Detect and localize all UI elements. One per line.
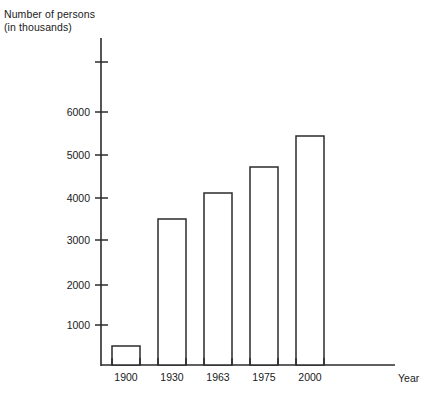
- bar-group: [112, 136, 324, 365]
- x-axis-title: Year: [398, 372, 420, 384]
- y-tick-label-1000: 1000: [67, 319, 91, 331]
- bar-chart: Number of persons (in thousands) 1000 20…: [0, 0, 435, 404]
- y-tick-label-6000: 6000: [67, 106, 91, 118]
- bar-1963: [204, 193, 232, 365]
- y-tick-label-2000: 2000: [67, 279, 91, 291]
- chart-canvas: 1000 2000 3000 4000 5000 6000: [0, 0, 435, 404]
- x-label-1975: 1975: [252, 371, 276, 383]
- x-label-2000: 2000: [298, 371, 322, 383]
- bar-1930: [158, 219, 186, 365]
- y-tick-label-4000: 4000: [67, 192, 91, 204]
- bar-1975: [250, 167, 278, 365]
- bar-1900: [112, 346, 140, 365]
- y-tick-label-5000: 5000: [67, 149, 91, 161]
- bar-2000: [296, 136, 324, 365]
- x-label-1963: 1963: [206, 371, 230, 383]
- x-label-1930: 1930: [160, 371, 184, 383]
- x-category-labels: 1900 1930 1963 1975 2000: [114, 371, 322, 383]
- y-tick-label-3000: 3000: [67, 234, 91, 246]
- x-label-1900: 1900: [114, 371, 138, 383]
